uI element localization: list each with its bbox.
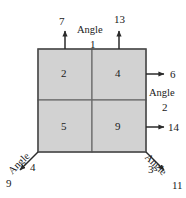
square-grid bbox=[38, 49, 146, 152]
angle-1-word: Angle bbox=[77, 25, 103, 36]
corner-number-left: 4 bbox=[30, 162, 36, 173]
angle-diagram-figure: 2 4 5 9 7 13 6 14 9 11 Angle 1 Angle 2 A… bbox=[0, 0, 186, 198]
cell-label-top-left: 2 bbox=[61, 68, 67, 79]
cell-label-bottom-left: 5 bbox=[61, 121, 67, 132]
arrow-label-11: 11 bbox=[172, 180, 183, 191]
arrow-label-14: 14 bbox=[168, 122, 179, 133]
cell-label-top-right: 4 bbox=[115, 68, 121, 79]
arrow-label-9: 9 bbox=[6, 178, 12, 189]
cell-label-bottom-right: 9 bbox=[115, 121, 121, 132]
corner-number-right: 3 bbox=[148, 164, 154, 175]
arrow-label-7: 7 bbox=[59, 16, 65, 27]
angle-2-number: 2 bbox=[162, 102, 168, 113]
angle-2-word: Angle bbox=[149, 88, 175, 99]
angle-1-number: 1 bbox=[90, 39, 96, 50]
arrow-label-13: 13 bbox=[114, 14, 125, 25]
arrow-label-6: 6 bbox=[170, 69, 176, 80]
